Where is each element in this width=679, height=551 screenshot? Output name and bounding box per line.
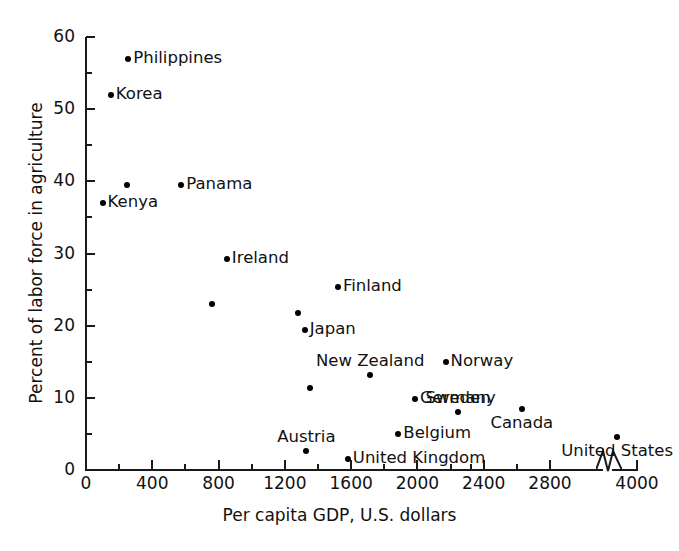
x-tick-minor xyxy=(118,464,120,470)
y-tick-minor xyxy=(86,72,92,74)
data-point-label: United Kingdom xyxy=(353,450,485,466)
x-axis-line-left-segment xyxy=(85,469,603,471)
data-point-label: Belgium xyxy=(403,425,471,441)
y-tick-major xyxy=(86,397,95,399)
data-point xyxy=(335,284,341,290)
data-point-label: Norway xyxy=(451,353,514,369)
data-point-label: Sweden xyxy=(425,390,490,406)
x-tick-minor xyxy=(516,464,518,470)
data-point xyxy=(100,200,106,206)
data-point xyxy=(614,434,620,440)
data-point xyxy=(519,406,525,412)
y-tick-major xyxy=(86,36,95,38)
x-tick-label: 2800 xyxy=(528,474,571,492)
data-point xyxy=(302,327,308,333)
data-point-label: Panama xyxy=(186,176,252,192)
y-tick-major xyxy=(86,469,95,471)
x-tick-label: 400 xyxy=(136,474,168,492)
y-tick-minor xyxy=(86,361,92,363)
data-point xyxy=(124,182,130,188)
y-tick-major xyxy=(86,325,95,327)
x-tick-label: 1200 xyxy=(263,474,306,492)
data-point-label: New Zealand xyxy=(316,353,424,369)
x-tick-label: 2000 xyxy=(396,474,439,492)
data-point xyxy=(412,396,418,402)
data-point-label: Kenya xyxy=(108,194,158,210)
x-tick-label: 800 xyxy=(202,474,234,492)
x-tick-label: 2400 xyxy=(462,474,505,492)
data-point xyxy=(443,359,449,365)
data-point xyxy=(395,431,401,437)
x-tick-minor xyxy=(184,464,186,470)
y-tick-major xyxy=(86,108,95,110)
scatter-chart: 0102030405060 04008001200160020002400280… xyxy=(0,0,679,551)
data-point xyxy=(178,182,184,188)
data-point-label: Austria xyxy=(277,429,335,445)
y-tick-minor xyxy=(86,216,92,218)
data-point xyxy=(224,256,230,262)
x-tick-label: 1600 xyxy=(330,474,373,492)
y-tick-label: 0 xyxy=(35,461,75,478)
x-tick-major xyxy=(151,460,153,470)
data-point xyxy=(108,92,114,98)
data-point-label: Japan xyxy=(310,321,356,337)
data-point xyxy=(367,372,373,378)
y-tick-minor xyxy=(86,289,92,291)
data-point xyxy=(125,56,131,62)
x-tick-label: 4000 xyxy=(615,474,658,492)
y-tick-major xyxy=(86,180,95,182)
data-point xyxy=(307,385,313,391)
x-tick-major xyxy=(85,460,87,470)
x-tick-minor xyxy=(317,464,319,470)
x-tick-minor xyxy=(251,464,253,470)
y-tick-minor xyxy=(86,433,92,435)
x-tick-major xyxy=(218,460,220,470)
x-tick-label: 0 xyxy=(81,474,92,492)
y-tick-major xyxy=(86,253,95,255)
y-tick-label: 60 xyxy=(35,28,75,45)
data-point-label: Finland xyxy=(343,278,402,294)
data-point-label: Ireland xyxy=(232,250,289,266)
data-point-label: Korea xyxy=(116,86,163,102)
data-point-label: Canada xyxy=(490,415,553,431)
y-tick-minor xyxy=(86,144,92,146)
data-point xyxy=(345,456,351,462)
data-point-label: United States xyxy=(561,443,673,459)
x-tick-major xyxy=(350,460,352,470)
y-axis-title: Percent of labor force in agriculture xyxy=(26,83,46,423)
data-point xyxy=(303,448,309,454)
data-point-label: Philippines xyxy=(133,50,222,66)
x-axis-title: Per capita GDP, U.S. dollars xyxy=(0,505,679,525)
x-tick-major xyxy=(549,460,551,470)
data-point xyxy=(209,301,215,307)
x-tick-major xyxy=(636,460,638,470)
x-tick-major xyxy=(284,460,286,470)
data-point xyxy=(295,310,301,316)
data-point xyxy=(455,409,461,415)
